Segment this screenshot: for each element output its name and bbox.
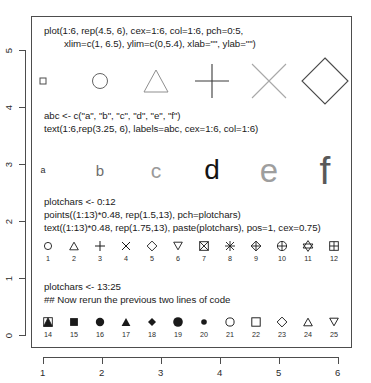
symbol-label-19: 19 (174, 330, 182, 339)
symbol-pch-25 (329, 318, 339, 327)
symbol-pch-3 (194, 63, 230, 99)
y-tick-2 (19, 221, 26, 222)
symbol-pch-2 (142, 68, 170, 94)
symbol-label-8: 8 (228, 254, 232, 263)
symbol-pch-7 (199, 241, 209, 251)
symbol-label-11: 11 (304, 254, 311, 263)
symbol-label-1: 1 (46, 254, 50, 263)
symbol-label-5: 5 (150, 254, 154, 263)
symbol-pch-10 (277, 241, 288, 252)
y-tick-label-0: 0 (3, 328, 14, 344)
letter-f: f (320, 151, 331, 190)
y-axis-line (25, 50, 26, 335)
symbol-label-9: 9 (254, 254, 258, 263)
x-tick-6 (338, 357, 339, 364)
code-line-9: ## Now rerun the previous two lines of c… (44, 294, 230, 306)
symbol-label-25: 25 (330, 330, 338, 339)
symbol-pch-18 (148, 318, 157, 327)
symbol-pch-14 (43, 317, 53, 327)
symbol-pch-5 (300, 56, 350, 106)
symbol-label-20: 20 (200, 330, 208, 339)
symbol-pch-9 (251, 241, 262, 252)
y-tick-label-5: 5 (3, 43, 14, 59)
x-tick-1 (43, 357, 44, 364)
code-line-7: text((1:13)*0.48, rep(1.75,13), paste(pl… (44, 222, 321, 234)
x-tick-label-6: 6 (335, 367, 340, 378)
symbol-pch-21 (225, 317, 235, 327)
symbol-pch-23 (277, 317, 288, 328)
symbol-pch-19 (173, 317, 184, 328)
code-line-1: plot(1:6, rep(4.5, 6), cex=1:6, col=1:6,… (44, 25, 243, 37)
x-tick-3 (161, 357, 162, 364)
symbol-label-7: 7 (202, 254, 206, 263)
symbol-pch-4 (249, 61, 289, 101)
letter-e: e (260, 154, 278, 187)
symbol-pch-1-small (44, 242, 53, 251)
symbol-pch-5-small (147, 241, 158, 252)
symbol-label-10: 10 (278, 254, 286, 263)
symbol-label-14: 14 (44, 330, 52, 339)
code-line-8: plotchars <- 13:25 (44, 281, 121, 293)
symbol-pch-24 (303, 318, 313, 327)
symbol-pch-11 (303, 240, 314, 252)
symbol-pch-22 (251, 317, 261, 327)
symbol-label-17: 17 (122, 330, 130, 339)
x-tick-label-2: 2 (99, 367, 104, 378)
letter-a: a (40, 166, 45, 175)
symbol-pch-6 (173, 242, 183, 251)
x-tick-label-1: 1 (40, 367, 45, 378)
symbol-label-6: 6 (176, 254, 180, 263)
symbol-label-3: 3 (98, 254, 102, 263)
symbol-pch-0 (39, 77, 47, 85)
symbol-label-23: 23 (278, 330, 286, 339)
code-line-4: text(1:6,rep(3.25, 6), labels=abc, cex=1… (44, 123, 258, 135)
letter-b: b (96, 163, 104, 178)
x-tick-label-3: 3 (158, 367, 163, 378)
y-tick-label-1: 1 (3, 271, 14, 287)
code-line-6: points((1:13)*0.48, rep(1.5,13), pch=plo… (44, 209, 241, 221)
symbol-pch-1 (91, 72, 109, 90)
x-tick-5 (279, 357, 280, 364)
symbol-pch-16 (95, 317, 105, 327)
symbol-pch-17 (121, 318, 131, 327)
y-tick-4 (19, 107, 26, 108)
x-tick-label-4: 4 (217, 367, 222, 378)
x-tick-2 (102, 357, 103, 364)
symbol-label-16: 16 (96, 330, 104, 339)
y-tick-label-2: 2 (3, 214, 14, 230)
symbol-pch-15 (70, 318, 79, 327)
r-plot-figure: plot(1:6, rep(4.5, 6), cex=1:6, col=1:6,… (0, 0, 371, 383)
x-tick-label-5: 5 (276, 367, 281, 378)
symbol-label-22: 22 (252, 330, 260, 339)
symbol-pch-3-small (95, 241, 106, 252)
symbol-label-4: 4 (124, 254, 128, 263)
y-tick-label-3: 3 (3, 157, 14, 173)
x-axis-line (43, 357, 338, 358)
code-line-3: abc <- c("a", "b", "c", "d", "e", "f") (44, 110, 181, 122)
symbol-label-12: 12 (330, 254, 338, 263)
symbol-label-24: 24 (304, 330, 312, 339)
symbol-label-21: 21 (226, 330, 234, 339)
symbol-pch-8 (225, 241, 236, 252)
symbol-label-15: 15 (70, 330, 78, 339)
symbol-pch-12 (329, 241, 339, 251)
y-tick-label-4: 4 (3, 100, 14, 116)
symbol-pch-2-small (69, 242, 79, 251)
y-tick-0 (19, 335, 26, 336)
letter-c: c (151, 160, 162, 181)
letter-d: d (204, 156, 220, 184)
y-tick-3 (19, 164, 26, 165)
symbol-pch-4-small (121, 241, 131, 251)
y-tick-5 (19, 50, 26, 51)
symbol-label-2: 2 (72, 254, 76, 263)
code-line-5: plotchars <- 0:12 (44, 196, 116, 208)
symbol-pch-20 (200, 318, 208, 326)
code-line-2: xlim=c(1, 6.5), ylim=c(0,5.4), xlab="", … (64, 38, 256, 50)
y-tick-1 (19, 278, 26, 279)
symbol-label-18: 18 (148, 330, 156, 339)
x-tick-4 (220, 357, 221, 364)
